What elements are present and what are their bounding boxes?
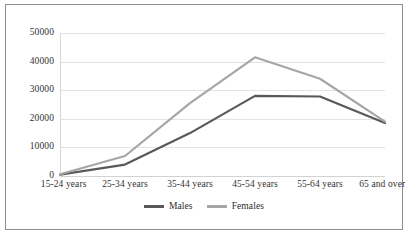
y-axis-tick-label: 30000 bbox=[16, 85, 54, 95]
y-axis-tick-label: 20000 bbox=[16, 114, 54, 124]
gridline bbox=[60, 176, 385, 177]
y-axis-tick-label: 10000 bbox=[16, 143, 54, 153]
plot-area bbox=[60, 33, 385, 176]
legend-label: Females bbox=[232, 202, 264, 212]
legend-label: Males bbox=[169, 202, 193, 212]
series-line-females bbox=[60, 57, 385, 174]
legend-swatch-icon bbox=[144, 205, 164, 208]
legend-item-males[interactable]: Males bbox=[144, 202, 193, 212]
y-axis-tick-label: 40000 bbox=[16, 57, 54, 67]
x-axis-tick-label: 65 and over bbox=[359, 179, 405, 190]
x-axis-tick-label: 25-34 years bbox=[102, 179, 148, 190]
series-layer bbox=[60, 33, 385, 176]
chart-legend: MalesFemales bbox=[16, 202, 392, 212]
series-lines bbox=[60, 57, 385, 174]
legend-swatch-icon bbox=[207, 205, 227, 208]
x-axis-tick-label: 35-44 years bbox=[167, 179, 213, 190]
x-axis-tick-label: 55-64 years bbox=[297, 179, 343, 190]
chart-figure: 01000020000300004000050000 15-24 years25… bbox=[0, 0, 408, 237]
x-axis-ticks: 15-24 years25-34 years35-44 years45-54 y… bbox=[60, 179, 385, 195]
chart-area: 01000020000300004000050000 15-24 years25… bbox=[16, 14, 392, 220]
legend-item-females[interactable]: Females bbox=[207, 202, 264, 212]
series-line-males bbox=[60, 96, 385, 175]
x-axis-tick-label: 45-54 years bbox=[232, 179, 278, 190]
y-axis-tick-label: 50000 bbox=[16, 28, 54, 38]
x-axis-tick-label: 15-24 years bbox=[41, 179, 87, 190]
